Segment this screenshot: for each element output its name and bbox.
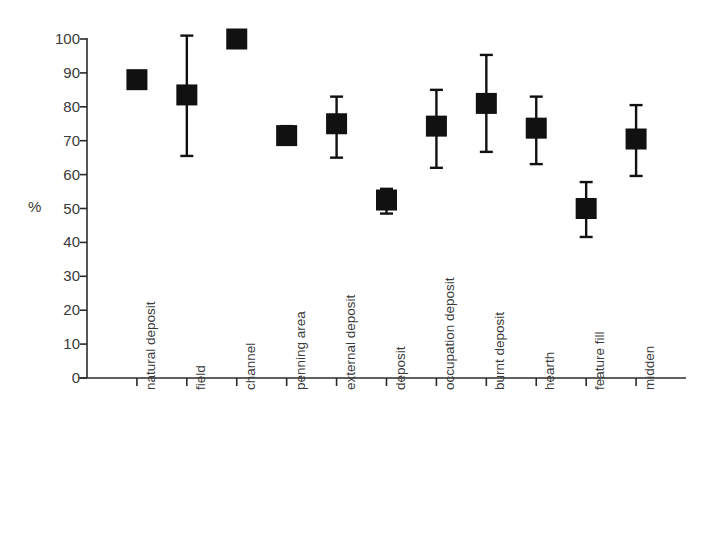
x-axis-tick-label: occupation deposit [442, 277, 457, 390]
data-point-marker [326, 113, 347, 134]
data-point-group [126, 69, 147, 90]
data-point-marker [576, 198, 597, 219]
y-axis-tick-label: 0 [44, 369, 80, 386]
x-axis-tick-label: hearth [542, 352, 557, 390]
data-point-group [376, 189, 397, 214]
data-point-marker [426, 116, 447, 137]
data-point-marker [626, 129, 647, 150]
x-axis-tick-label: natural deposit [143, 301, 158, 390]
y-axis-tick-label: 60 [44, 166, 80, 183]
data-point-marker [476, 93, 497, 114]
y-axis-tick-label: 50 [44, 200, 80, 217]
data-point-group [326, 97, 347, 158]
y-axis-tick-label: 100 [44, 30, 80, 47]
x-axis-tick-label: channel [243, 343, 258, 390]
y-axis-tick-label: 40 [44, 233, 80, 250]
data-point-marker [126, 69, 147, 90]
y-axis-tick-label: 80 [44, 98, 80, 115]
data-point-group [626, 105, 647, 176]
data-point-group [176, 36, 197, 156]
x-axis-tick-label: deposit [393, 346, 408, 390]
y-axis-tick-label: 30 [44, 267, 80, 284]
data-point-marker [276, 125, 297, 146]
data-point-group [476, 55, 497, 152]
x-axis-tick-label: field [193, 365, 208, 390]
y-axis-tick-label: 20 [44, 301, 80, 318]
data-point-marker [526, 118, 547, 139]
data-point-group [426, 90, 447, 168]
y-axis-unit-label: % [28, 198, 42, 215]
y-axis-tick-label: 90 [44, 64, 80, 81]
x-axis-tick-label: midden [642, 346, 657, 390]
data-point-marker [226, 29, 247, 50]
x-axis-tick-label: penning area [293, 311, 308, 390]
data-point-marker [376, 190, 397, 211]
x-axis-tick-label: feature fill [592, 331, 607, 390]
data-point-group [526, 97, 547, 164]
y-axis-tick-label: 70 [44, 132, 80, 149]
x-axis-tick-label: burnt deposit [492, 312, 507, 390]
y-axis-tick-label: 10 [44, 335, 80, 352]
data-point-group [226, 29, 247, 50]
data-point-group [576, 182, 597, 237]
errorbar-plot [0, 0, 706, 540]
chart-container: % 0102030405060708090100 natural deposit… [0, 0, 706, 540]
x-axis-tick-label: external deposit [343, 295, 358, 390]
data-point-marker [176, 84, 197, 105]
data-point-group [276, 125, 297, 146]
